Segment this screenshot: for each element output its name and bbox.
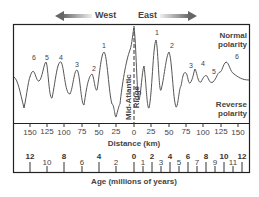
- reverse-polarity-label: Reverse polarity: [216, 100, 247, 118]
- peak-label-west-6: 6: [32, 54, 36, 61]
- distance-tick-label: 75: [182, 127, 191, 136]
- distance-tick-label: 125: [40, 127, 53, 136]
- normal-polarity-label: Normal polarity: [218, 31, 247, 49]
- peak-label-east-2: 2: [170, 42, 174, 49]
- age-tick-minor: 2: [114, 158, 118, 167]
- age-tick-major: 10: [220, 152, 229, 161]
- distance-tick-label: 0: [132, 128, 136, 137]
- peak-label-west-5: 5: [45, 54, 49, 61]
- age-tick-major: 4: [97, 152, 101, 161]
- distance-tick-label: 25: [147, 127, 156, 136]
- age-tick-minor: 1: [141, 158, 145, 167]
- distance-tick-label: 100: [196, 128, 209, 137]
- peak-label-west-1: 1: [102, 42, 106, 49]
- age-tick-major: 4: [168, 152, 172, 161]
- distance-tick-label: 25: [112, 127, 121, 136]
- east-label: East: [138, 10, 157, 20]
- distance-tick-label: 50: [95, 128, 104, 137]
- distance-tick-label: 75: [78, 127, 87, 136]
- age-tick-minor: 10: [43, 158, 52, 167]
- distance-tick-label: 50: [165, 128, 174, 137]
- peak-label-east-3: 3: [189, 62, 193, 69]
- distance-tick-label: 150: [23, 128, 36, 137]
- reverse-polarity-line1: Reverse: [216, 100, 247, 109]
- distance-axis-title: Distance (km): [108, 139, 160, 148]
- peak-label-west-4: 4: [59, 54, 63, 61]
- normal-polarity-line1: Normal: [218, 31, 247, 40]
- age-tick-minor: 5: [177, 158, 181, 167]
- age-tick-major: 8: [62, 152, 66, 161]
- peak-label-west-3: 3: [75, 61, 79, 68]
- age-tick-major: 0: [132, 152, 136, 161]
- age-tick-minor: 9: [213, 158, 217, 167]
- distance-tick-label: 100: [57, 128, 70, 137]
- distance-tick-label: 125: [214, 127, 227, 136]
- peak-label-east-6: 6: [235, 53, 239, 60]
- west-label: West: [95, 10, 116, 20]
- peak-label-east-1: 1: [155, 29, 159, 36]
- normal-polarity-line2: polarity: [218, 40, 247, 49]
- mid-atlantic-ridge-label: Mid-Atlantic Ridge: [125, 74, 141, 120]
- peak-label-east-4: 4: [201, 60, 205, 67]
- age-tick-minor: 11: [229, 158, 237, 167]
- reverse-polarity-line2: polarity: [216, 109, 247, 118]
- age-tick-major: 12: [238, 152, 247, 161]
- distance-tick-label: 150: [231, 128, 244, 137]
- age-tick-major: 2: [150, 152, 154, 161]
- west-arrow-icon: [55, 11, 92, 21]
- age-tick-minor: 6: [80, 158, 84, 167]
- ridge-label-line2: Ridge: [133, 74, 141, 120]
- peak-label-west-2: 2: [92, 65, 96, 72]
- age-tick-major: 12: [26, 152, 35, 161]
- age-tick-major: 6: [186, 152, 190, 161]
- age-tick-minor: 3: [159, 158, 163, 167]
- age-tick-major: 8: [204, 152, 208, 161]
- age-tick-minor: 7: [195, 158, 199, 167]
- age-ticks: [30, 162, 242, 172]
- peak-label-east-5: 5: [212, 68, 216, 75]
- east-arrow-icon: [160, 11, 197, 21]
- age-axis-title: Age (millions of years): [91, 177, 177, 186]
